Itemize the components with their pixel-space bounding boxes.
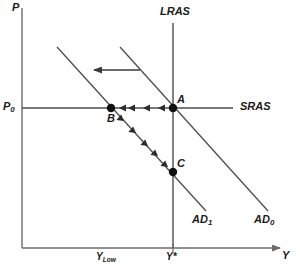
- ad-as-diagram: P Y P0 LRAS SRAS AD1 AD0 A B C YLow Y*: [0, 0, 300, 272]
- ad0-label-sub: 0: [270, 218, 274, 227]
- x-axis-label: Y: [282, 250, 289, 261]
- point-a-dot: [169, 104, 177, 112]
- p0-label: P0: [3, 101, 15, 114]
- tick-label-y-star-main: Y: [166, 251, 173, 262]
- diagram-canvas: [0, 0, 300, 272]
- ad1-label-main: AD: [192, 213, 208, 225]
- tick-label-y-low-main: Y: [96, 251, 103, 262]
- axis-lines: [22, 8, 280, 248]
- point-c-dot: [169, 168, 177, 176]
- tick-label-y-low: YLow: [96, 252, 116, 263]
- tick-label-y-star: Y*: [166, 252, 177, 262]
- ad1-label-sub: 1: [208, 218, 212, 227]
- ad0-label-main: AD: [254, 213, 270, 225]
- point-b-dot: [107, 104, 115, 112]
- point-c-label: C: [177, 158, 185, 169]
- y-axis-label: P: [12, 2, 19, 13]
- tick-label-y-star-sub: *: [173, 251, 177, 262]
- ad1-label: AD1: [192, 214, 212, 227]
- p0-label-sub: 0: [10, 105, 14, 114]
- sras-label: SRAS: [240, 101, 271, 112]
- ad0-curve: [120, 47, 268, 211]
- point-a-label: A: [177, 94, 185, 105]
- ad0-label: AD0: [254, 214, 274, 227]
- point-b-label: B: [107, 113, 115, 124]
- lras-label: LRAS: [160, 6, 190, 17]
- tick-label-y-low-sub: Low: [103, 256, 116, 263]
